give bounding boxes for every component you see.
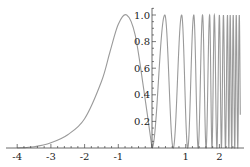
y-tick-label: 0.2 (134, 116, 150, 127)
left-bump-line (17, 15, 152, 148)
x-tick-label: 2 (216, 151, 222, 162)
y-tick-label: 0.6 (134, 63, 150, 74)
chart: -4-3-2-1120.20.40.60.81.0 (0, 0, 250, 167)
y-tick-label: 0.4 (134, 89, 150, 100)
x-tick-label: -2 (80, 151, 90, 162)
plot-lines (17, 15, 240, 148)
x-tick-label: -4 (12, 151, 22, 162)
x-tick-label: 1 (183, 151, 189, 162)
y-tick-label: 1.0 (134, 10, 150, 21)
y-tick-label: 0.8 (134, 36, 150, 47)
right-oscillation-line (152, 15, 240, 148)
x-tick-label: -3 (46, 151, 56, 162)
x-tick-label: -1 (113, 151, 123, 162)
